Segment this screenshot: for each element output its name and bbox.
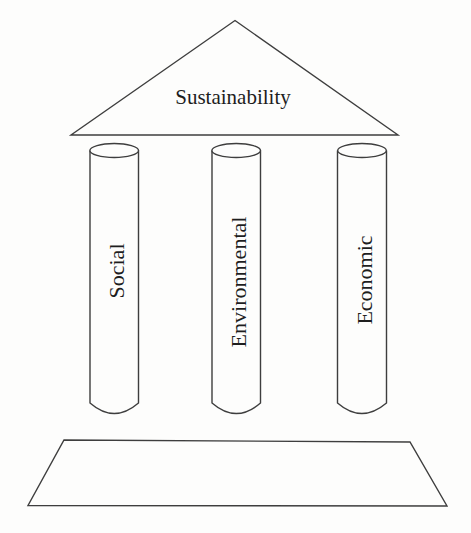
base-platform — [28, 440, 447, 506]
pillar-environmental: Environmental — [212, 144, 261, 414]
pillar-environmental-top — [212, 144, 261, 158]
pediment-label: Sustainability — [175, 85, 291, 109]
pillar-economic-label: Economic — [352, 235, 377, 324]
sustainability-pillars-diagram: Sustainability Social Environmental Econ… — [0, 0, 471, 533]
pillar-environmental-label: Environmental — [226, 217, 251, 348]
pillar-economic: Economic — [338, 144, 387, 414]
pillar-social-top — [90, 144, 139, 158]
pillar-economic-top — [338, 144, 387, 158]
diagram-canvas: Sustainability Social Environmental Econ… — [0, 0, 471, 533]
pediment: Sustainability — [71, 21, 398, 136]
pediment-triangle — [71, 21, 398, 136]
pillar-social-label: Social — [104, 244, 129, 299]
pillar-social: Social — [90, 144, 139, 414]
